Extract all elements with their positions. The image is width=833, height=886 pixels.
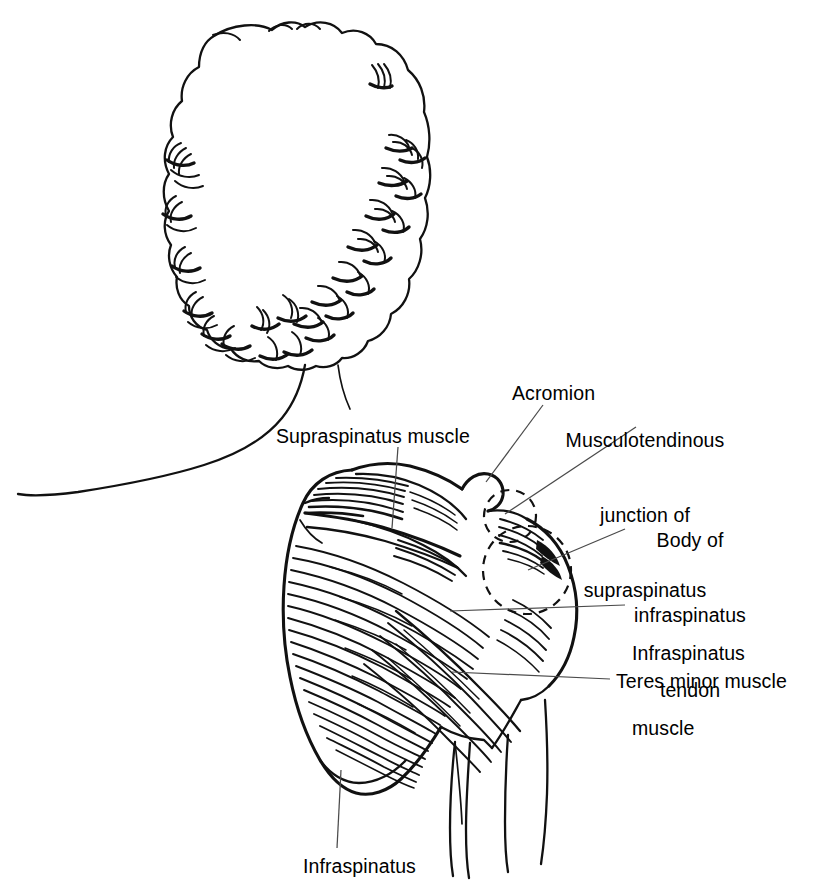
label-supraspinatus-muscle: Supraspinatus muscle — [276, 424, 470, 449]
label-infraspinatus-muscle-line-2: muscle — [632, 716, 745, 741]
leader-teres-minor — [452, 672, 610, 679]
label-infraspinatus-bottom: Infraspinatus — [303, 854, 416, 879]
scapula-group — [283, 464, 576, 795]
label-infraspinatus-muscle-line-1: Infraspinatus — [632, 641, 745, 666]
label-musculotendinous-junction-line-1: Musculotendinous — [555, 428, 735, 453]
hair-curls-left — [163, 143, 255, 361]
label-teres-minor-muscle: Teres minor muscle — [616, 669, 787, 694]
musculotendinous-junction-circle — [484, 490, 536, 542]
anatomy-figure: Supraspinatus muscle Acromion Musculoten… — [0, 0, 833, 886]
leader-acromion — [486, 405, 543, 482]
label-body-of-infraspinatus-tendon-line-1: Body of — [610, 528, 770, 553]
head-hair-group — [163, 22, 430, 369]
supraspinatus-fibers — [305, 478, 457, 530]
cuff-insertion-fibers — [497, 519, 562, 672]
